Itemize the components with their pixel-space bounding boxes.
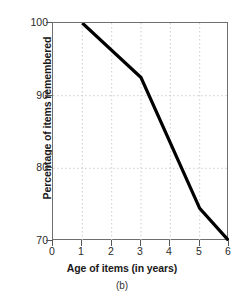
x-tick-label-4: 4 [159, 245, 179, 257]
x-tick-label-2: 2 [101, 245, 121, 257]
x-tick-label-6: 6 [218, 245, 238, 257]
x-tick-label-3: 3 [130, 245, 150, 257]
y-tick-label-90: 90 [4, 89, 48, 101]
chart-svg [53, 23, 229, 241]
x-tick-label-1: 1 [71, 245, 91, 257]
y-tick-label-100: 100 [4, 16, 48, 28]
x-tick-label-0: 0 [42, 245, 62, 257]
vertical-gridlines [82, 23, 199, 241]
plot-area [52, 22, 228, 240]
x-axis-title: Age of items (in years) [0, 262, 244, 274]
y-tick-label-80: 80 [4, 161, 48, 173]
data-series-line [82, 23, 229, 241]
x-tick-label-5: 5 [189, 245, 209, 257]
panel-caption: (b) [0, 280, 244, 291]
figure-panel-b: Percentage of items remembered 100 90 80… [0, 0, 244, 306]
